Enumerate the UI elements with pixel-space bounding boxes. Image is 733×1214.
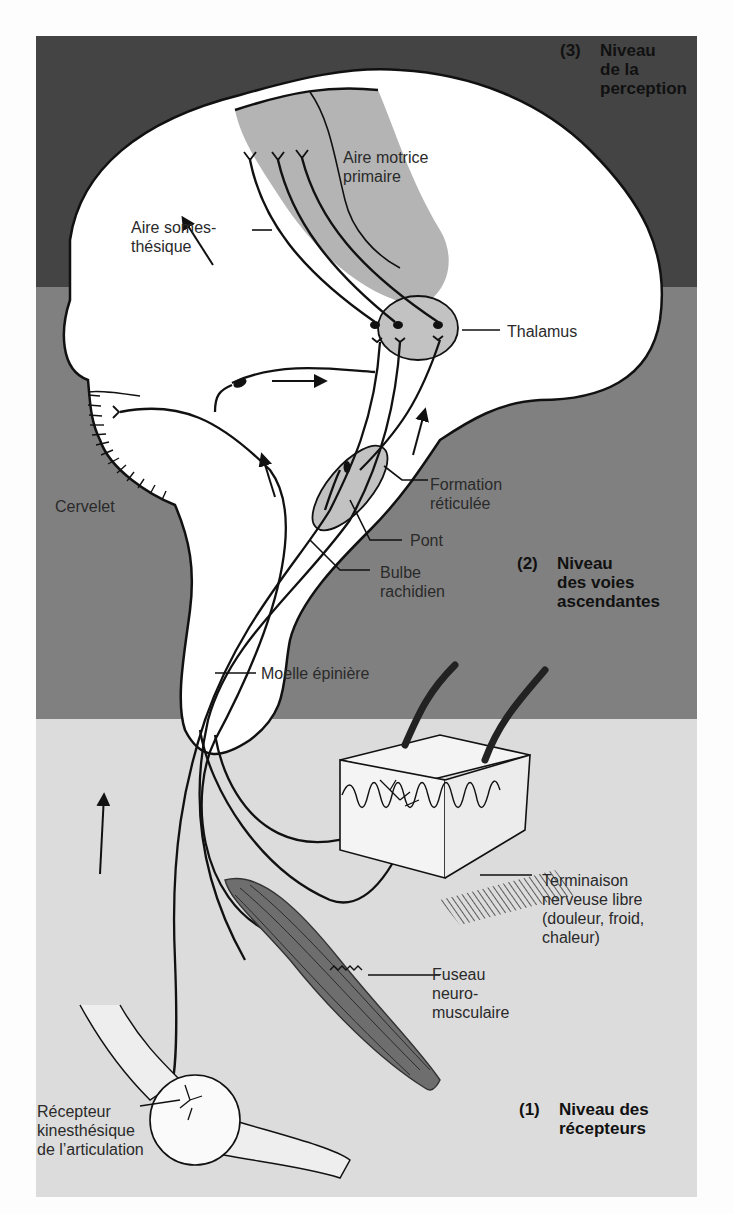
label-pont: Pont bbox=[410, 531, 443, 550]
label-thalamus: Thalamus bbox=[507, 322, 577, 341]
level-1-label: (1) Niveau des récepteurs bbox=[519, 1100, 538, 1176]
level-number: (1) bbox=[519, 1100, 540, 1119]
thalamus-region bbox=[378, 296, 458, 360]
level-number: (3) bbox=[560, 41, 581, 60]
label-bulbe-rachidien: Bulbe rachidien bbox=[380, 563, 445, 601]
label-aire-somesthesique: Aire somes- thésique bbox=[131, 218, 216, 256]
ascending-pathways-diagram: (3) Niveau de la perception (2) Niveau d… bbox=[0, 0, 733, 1214]
muscle bbox=[225, 878, 440, 1089]
label-recepteur-kinesthesique: Récepteur kinesthésique de l’articulatio… bbox=[37, 1102, 144, 1159]
level-text: Niveau de la perception bbox=[600, 41, 687, 98]
label-formation-reticulee: Formation réticulée bbox=[430, 475, 502, 513]
label-moelle-epiniere: Moelle épinière bbox=[261, 664, 370, 683]
label-fuseau-neuromusculaire: Fuseau neuro- musculaire bbox=[432, 965, 509, 1022]
level-number: (2) bbox=[517, 554, 538, 573]
label-terminaison-nerveuse: Terminaison nerveuse libre (douleur, fro… bbox=[542, 871, 644, 947]
label-cervelet: Cervelet bbox=[55, 497, 115, 516]
label-aire-motrice: Aire motrice primaire bbox=[343, 148, 428, 186]
level-text: Niveau des voies ascendantes bbox=[557, 554, 660, 611]
level-3-label: (3) Niveau de la perception bbox=[560, 41, 579, 117]
level-text: Niveau des récepteurs bbox=[559, 1100, 649, 1138]
level-2-label: (2) Niveau des voies ascendantes bbox=[517, 554, 536, 630]
